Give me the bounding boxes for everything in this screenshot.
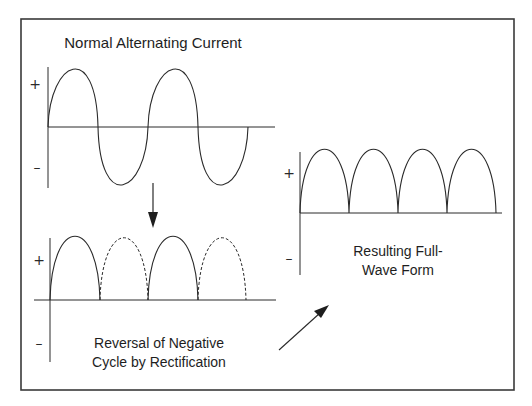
panel-full-wave: + – Resulting Full- Wave Form (283, 149, 502, 278)
fullwave-label-line1: Resulting Full- (353, 243, 443, 259)
ac-plus-sign: + (29, 76, 41, 92)
reversal-positive-arch (50, 236, 100, 300)
ac-minus-sign: – (34, 159, 41, 175)
panel-normal-ac: Normal Alternating Current + – (29, 34, 275, 188)
rectification-diagram: Normal Alternating Current + – + – Rever… (0, 0, 532, 406)
reversal-plus-sign: + (33, 252, 45, 268)
reversal-minus-sign: – (36, 335, 43, 351)
reversal-positive-arch (148, 236, 198, 300)
reversal-label-line2: Cycle by Rectification (92, 354, 226, 370)
panel-reversal: + – Reversal of Negative Cycle by Rectif… (33, 236, 276, 370)
reversal-flipped-arch (198, 238, 246, 300)
diagonal-arrow-icon (279, 305, 329, 350)
fullwave-plus-sign: + (283, 165, 295, 181)
fullwave-label-line2: Wave Form (362, 262, 434, 278)
fullwave-arches (300, 149, 496, 213)
fullwave-minus-sign: – (286, 250, 293, 266)
down-arrow-icon (148, 183, 158, 228)
ac-label: Normal Alternating Current (64, 34, 242, 51)
reversal-label-line1: Reversal of Negative (94, 335, 224, 351)
reversal-flipped-arch (100, 238, 148, 300)
